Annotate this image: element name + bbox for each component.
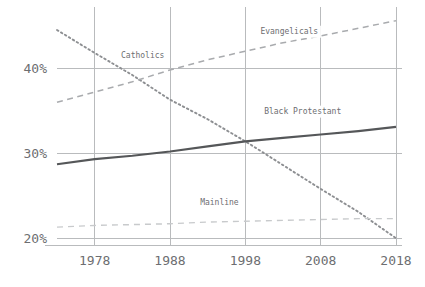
gridlines-horizontal <box>57 68 402 238</box>
series-label-mainline: Mainline <box>200 198 239 207</box>
x-axis-tick-labels: 19781988199820082018 <box>79 253 412 268</box>
series-line-black-protestant <box>57 127 396 164</box>
y-tick-label: 30% <box>24 146 48 161</box>
series-label-black-protestant: Black Protestant <box>264 107 341 116</box>
x-tick-label: 1998 <box>230 253 261 268</box>
x-tick-label: 1978 <box>79 253 110 268</box>
x-tick-label: 1988 <box>154 253 185 268</box>
chart-plot-area: 20%30%40% 19781988199820082018 Catholics… <box>0 0 425 287</box>
gridlines-vertical <box>95 7 396 245</box>
y-tick-label: 40% <box>24 61 48 76</box>
x-tick-label: 2018 <box>380 253 411 268</box>
series-label-catholics: Catholics <box>121 51 165 60</box>
series-label-evangelicals: Evangelicals <box>260 27 318 36</box>
x-tick-label: 2008 <box>305 253 336 268</box>
y-tick-label: 20% <box>24 231 48 246</box>
series-line-mainline <box>57 219 396 227</box>
y-axis-tick-labels: 20%30%40% <box>24 61 48 246</box>
line-chart: 20%30%40% 19781988199820082018 Catholics… <box>0 0 425 287</box>
